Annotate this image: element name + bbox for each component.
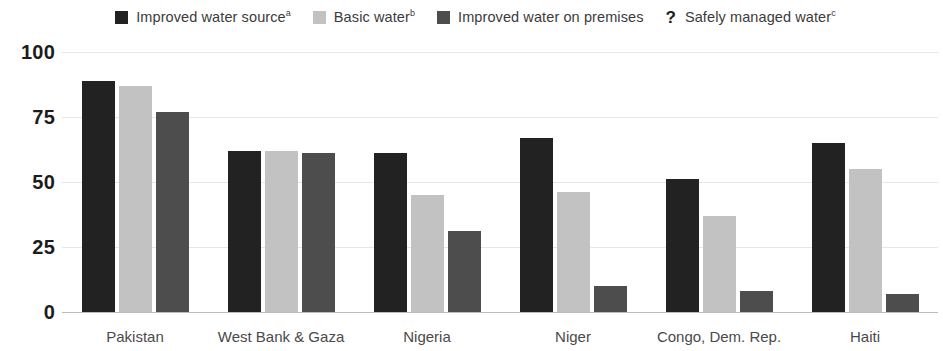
- chart-plot-area: 0255075100 PakistanWest Bank & GazaNiger…: [0, 34, 943, 351]
- bar-west-bank-gaza-series-1: [228, 151, 261, 312]
- legend-improved-water-source[interactable]: Improved water sourcea: [115, 9, 291, 25]
- legend-safely-managed-water[interactable]: ?Safely managed waterc: [666, 9, 836, 26]
- bar-nigeria-series-3: [448, 231, 481, 312]
- bar-haiti-series-1: [812, 143, 845, 312]
- legend-footnote-marker: a: [286, 8, 291, 18]
- bar-congo-dem-rep-series-2: [703, 216, 736, 312]
- bar-haiti-series-3: [886, 294, 919, 312]
- bar-pakistan-series-2: [119, 86, 152, 312]
- legend-swatch-icon: [313, 11, 326, 24]
- bar-nigeria-series-2: [411, 195, 444, 312]
- x-axis-label-pakistan: Pakistan: [106, 328, 164, 345]
- bar-congo-dem-rep-series-3: [740, 291, 773, 312]
- x-axis-label-west-bank-gaza: West Bank & Gaza: [218, 328, 344, 345]
- bar-haiti-series-2: [849, 169, 882, 312]
- x-axis-label-haiti: Haiti: [850, 328, 880, 345]
- x-axis-label-nigeria: Nigeria: [403, 328, 451, 345]
- bar-niger-series-2: [557, 192, 590, 312]
- x-axis-label-niger: Niger: [555, 328, 591, 345]
- bar-niger-series-3: [594, 286, 627, 312]
- legend-swatch-icon: [115, 11, 128, 24]
- legend-label: Improved water on premises: [458, 9, 644, 25]
- legend-basic-water[interactable]: Basic waterb: [313, 9, 415, 25]
- legend-footnote-marker: b: [410, 8, 415, 18]
- legend-improved-water-on-premises[interactable]: Improved water on premises: [437, 9, 644, 25]
- legend-swatch-icon: [437, 11, 450, 24]
- legend-footnote-marker: c: [831, 8, 836, 18]
- bar-niger-series-1: [520, 138, 553, 312]
- bar-nigeria-series-1: [374, 153, 407, 312]
- x-axis-label-congo-dem-rep: Congo, Dem. Rep.: [657, 328, 781, 345]
- legend-label: Improved water sourcea: [136, 9, 291, 25]
- chart-legend: Improved water sourceaBasic waterbImprov…: [0, 0, 943, 34]
- bar-west-bank-gaza-series-2: [265, 151, 298, 312]
- question-mark-icon: ?: [666, 9, 676, 26]
- legend-label: Basic waterb: [334, 9, 415, 25]
- bar-west-bank-gaza-series-3: [302, 153, 335, 312]
- bar-pakistan-series-1: [82, 81, 115, 312]
- bars-layer: [0, 34, 943, 351]
- legend-label: Safely managed waterc: [685, 9, 836, 25]
- bar-congo-dem-rep-series-1: [666, 179, 699, 312]
- bar-pakistan-series-3: [156, 112, 189, 312]
